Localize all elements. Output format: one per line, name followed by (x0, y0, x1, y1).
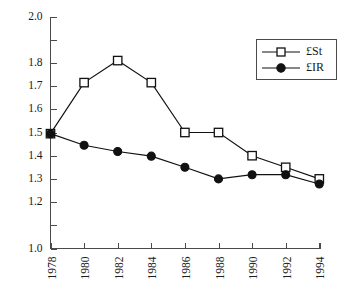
data-point-filled-circle (181, 163, 189, 171)
legend-box (257, 40, 337, 80)
x-tick-label: 1988 (214, 256, 226, 279)
filled-circle-icon (277, 64, 285, 72)
data-point-filled-circle (147, 152, 155, 160)
x-tick-label: 1984 (146, 256, 158, 279)
data-point-open-square (147, 78, 155, 86)
y-tick-label: 1.2 (28, 195, 43, 207)
figure-caption (0, 289, 344, 297)
x-tick-label: 1990 (247, 256, 259, 279)
x-tick-label: 1994 (314, 256, 326, 279)
data-point-filled-circle (80, 141, 88, 149)
data-point-open-square (248, 152, 256, 160)
data-point-filled-circle (215, 175, 223, 183)
data-point-filled-circle (47, 130, 55, 138)
y-tick-label: 1.7 (28, 79, 43, 91)
data-point-open-square (114, 56, 122, 64)
line-chart-canvas: 2.01.81.71.61.51.41.31.21.0 197819801982… (0, 0, 344, 297)
series-ir (47, 130, 324, 188)
y-tick-label: 1.6 (28, 102, 43, 114)
y-tick-label: 1.0 (28, 242, 43, 254)
x-tick-label: 1978 (46, 256, 58, 279)
data-point-filled-circle (248, 171, 256, 179)
x-tick-label: 1986 (180, 256, 192, 279)
x-axis-tick-labels: 197819801982198419861988199019921994 (46, 256, 326, 279)
chart-figure: 2.01.81.71.61.51.41.31.21.0 197819801982… (0, 0, 344, 297)
legend-label-ir: £IR (306, 60, 324, 74)
data-point-open-square (181, 128, 189, 136)
y-tick-label: 1.8 (28, 56, 43, 68)
x-tick-label: 1982 (113, 256, 125, 279)
data-point-filled-circle (114, 148, 122, 156)
data-point-open-square (80, 78, 88, 86)
y-tick-label: 2.0 (28, 10, 43, 22)
x-tick-label: 1992 (281, 256, 293, 279)
y-tick-label: 1.5 (28, 126, 43, 138)
x-axis-ticks (52, 243, 321, 249)
open-square-icon (277, 48, 285, 56)
x-tick-label: 1980 (79, 256, 91, 279)
chart-legend: £St £IR (257, 40, 337, 80)
y-tick-label: 1.4 (28, 149, 43, 161)
data-point-filled-circle (282, 171, 290, 179)
data-point-open-square (214, 128, 222, 136)
legend-label-st: £St (306, 44, 323, 58)
series-polyline (51, 134, 320, 184)
data-point-filled-circle (315, 180, 323, 188)
y-axis-tick-labels: 2.01.81.71.61.51.41.31.21.0 (28, 10, 43, 254)
y-tick-label: 1.3 (28, 172, 43, 184)
